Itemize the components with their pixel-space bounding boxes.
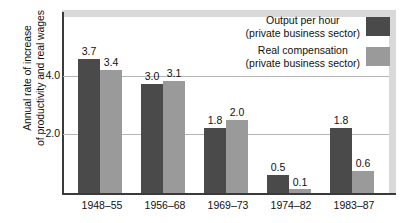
legend-sublabel: (private business sector) xyxy=(246,57,360,70)
bar-value-light: 0.1 xyxy=(286,176,314,188)
bar-value-light: 3.1 xyxy=(160,67,188,79)
y-axis-title-line1: Annual rate of increase xyxy=(21,0,34,173)
y-axis-title: Annual rate of increase of productivity … xyxy=(21,0,53,173)
y-tick-2: 2.0 xyxy=(30,134,60,135)
legend-label: Output per hour xyxy=(246,14,360,27)
legend-sublabel: (private business sector) xyxy=(246,27,360,40)
bar-dark[interactable] xyxy=(204,128,226,193)
bar-value-light: 0.6 xyxy=(349,157,377,169)
bar-value-light: 3.4 xyxy=(97,56,125,68)
bar-light[interactable] xyxy=(163,81,185,193)
legend-item-output-per-hour[interactable]: Output per hour (private business sector… xyxy=(218,14,390,39)
bar-light[interactable] xyxy=(289,189,311,193)
bar-group: 3.0 3.1 xyxy=(141,17,187,193)
bar-value-dark: 1.8 xyxy=(327,114,355,126)
bar-value-dark: 0.5 xyxy=(264,161,292,173)
legend: Output per hour (private business sector… xyxy=(218,14,390,74)
y-tick-label-2: 2.0 xyxy=(36,127,60,139)
bar-group: 3.7 3.4 xyxy=(78,17,124,193)
legend-swatch-icon xyxy=(366,47,390,66)
bar-light[interactable] xyxy=(352,171,374,193)
y-tick-4: 4.0 xyxy=(30,76,60,77)
x-tick-label: 1983–87 xyxy=(309,199,399,211)
bar-dark[interactable] xyxy=(78,59,100,193)
bar-light[interactable] xyxy=(226,120,248,193)
legend-swatch-icon xyxy=(366,17,390,36)
bar-dark[interactable] xyxy=(141,84,163,193)
bar-value-light: 2.0 xyxy=(223,106,251,118)
y-tick-label-4: 4.0 xyxy=(36,69,60,81)
legend-label: Real compensation xyxy=(246,44,360,57)
legend-item-real-compensation[interactable]: Real compensation (private business sect… xyxy=(218,44,390,69)
y-axis-title-line2: of productivity and real wages xyxy=(34,0,47,173)
bar-chart: Annual rate of increase of productivity … xyxy=(0,0,405,223)
bar-light[interactable] xyxy=(100,70,122,193)
x-axis-line xyxy=(62,193,396,195)
legend-label-group: Output per hour (private business sector… xyxy=(246,14,360,39)
legend-label-group: Real compensation (private business sect… xyxy=(246,44,360,69)
